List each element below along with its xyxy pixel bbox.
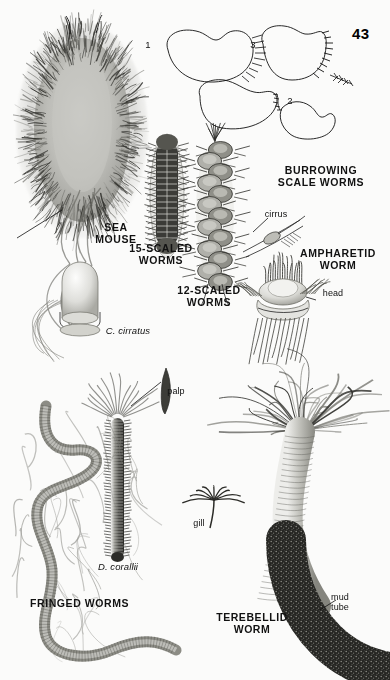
label-15-scaled-worms: 15-SCALED WORMS — [118, 243, 204, 267]
label-mud-tube: mud tube — [322, 592, 358, 612]
burrow-step-2-number: 2 — [283, 96, 297, 107]
label-palp: palp — [160, 386, 192, 396]
burrow-step-3-number: 3 — [246, 40, 260, 51]
label-c-cirratus: C. cirratus — [92, 326, 164, 337]
label-terebellid-worm: TEREBELLID WORM — [208, 612, 296, 636]
fifteen-scaled-worm — [144, 134, 189, 258]
burrow-step-1-number: 1 — [141, 40, 155, 51]
burrow-diagram-outlines — [167, 26, 353, 139]
label-fringed-worms: FRINGED WORMS — [30, 598, 152, 610]
sea-mouse-illustration — [0, 0, 390, 680]
field-guide-page: 43 — [0, 0, 390, 680]
label-12-scaled-worms: 12-SCALED WORMS — [166, 285, 252, 309]
label-head: head — [316, 288, 350, 298]
twelve-scaled-worm — [180, 123, 251, 306]
label-burrowing-scale-worms: BURROWING SCALE WORMS — [262, 165, 380, 189]
label-d-corallii: D. corallii — [82, 562, 154, 573]
label-gill: gill — [184, 518, 214, 528]
label-cirrus: cirrus — [258, 209, 294, 219]
fringed-worm-body — [12, 405, 176, 662]
label-ampharetid-worm: AMPHARETID WORM — [290, 248, 386, 272]
